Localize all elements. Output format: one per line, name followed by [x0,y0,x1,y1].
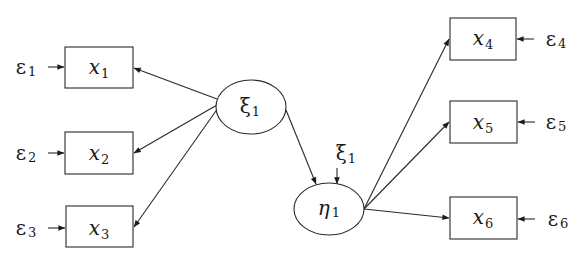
error-label-e2: ε2 [16,141,37,165]
x5-subscript: 5 [485,121,493,136]
xi1-symbol: ξ [240,94,251,118]
path-xi1-x1 [134,68,217,99]
x6-subscript: 6 [485,216,493,231]
path-xi1-x3 [134,108,218,227]
disturbance-label: ξ1 [336,141,356,166]
observed-node-x6: x6 [450,197,517,239]
latent-node-eta1: η1 [294,183,364,235]
path-eta1-x6 [364,209,449,218]
error-label-e1: ε1 [16,55,37,79]
observed-node-x4: x4 [450,18,516,60]
observed-node-x1: x1 [65,47,133,88]
eta1-subscript: 1 [332,205,340,220]
observed-node-x2: x2 [65,132,133,174]
x2-symbol: x [89,141,100,165]
x1-subscript: 1 [101,66,109,81]
path-eta1-x4 [364,39,449,209]
observed-node-x3: x3 [66,206,133,247]
disturbance-symbol: ξ [336,141,347,165]
path-xi1-x2 [134,105,217,153]
eta1-symbol: η [318,196,330,220]
x2-subscript: 2 [101,152,109,167]
latent-node-xi1: ξ1 [216,80,286,134]
error-label-e5: ε5 [546,110,567,134]
x4-symbol: x [473,26,484,50]
error-label-e6: ε6 [548,207,569,231]
error-label-e3: ε3 [16,216,37,240]
x3-symbol: x [89,216,100,240]
path-eta1-x5 [364,122,449,209]
observed-node-x5: x5 [450,101,517,143]
sem-diagram: x1 x2 x3 x4 x5 x6 ξ1 η1 ξ1 ε1 ε2 ε3 ε4 ε… [0,0,581,260]
x6-symbol: x [473,205,484,229]
x4-subscript: 4 [485,37,493,52]
x5-symbol: x [473,110,484,134]
error-label-e4: ε4 [546,27,567,51]
disturbance-subscript: 1 [348,151,356,166]
x1-symbol: x [89,55,100,79]
path-xi1-eta1 [286,110,316,184]
xi1-subscript: 1 [252,104,260,119]
x3-subscript: 3 [101,227,109,242]
